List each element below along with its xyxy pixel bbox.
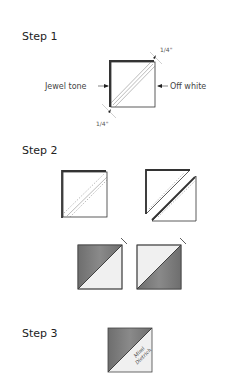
step2-pressed-square-a: [78, 238, 127, 289]
step1-square: [98, 52, 168, 118]
quilt-diagram: [0, 0, 231, 387]
step2-cut-square: [146, 170, 196, 221]
step2-pressed-square-b: [137, 238, 186, 289]
step2-stitched-square: [62, 171, 107, 218]
